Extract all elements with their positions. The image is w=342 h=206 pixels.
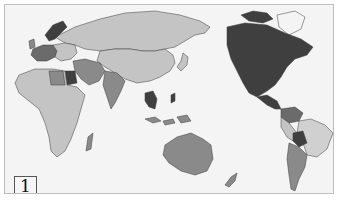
region-russia	[55, 11, 210, 51]
region-australia	[163, 133, 213, 175]
region-arctic-canada	[241, 11, 273, 23]
panel-label: 1	[14, 176, 37, 194]
region-thailand	[145, 91, 157, 109]
map-canvas	[5, 5, 334, 194]
region-central-america	[257, 95, 281, 109]
region-madagascar	[86, 133, 93, 151]
region-middle-east	[73, 59, 105, 85]
region-argentina-chile	[287, 143, 307, 191]
region-indonesia	[145, 115, 191, 125]
region-eastern-europe	[53, 43, 77, 61]
region-western-europe	[31, 45, 57, 61]
region-new-zealand	[225, 173, 237, 187]
region-philippines	[171, 93, 175, 103]
region-libya	[49, 71, 65, 85]
region-uk	[29, 39, 35, 49]
region-north-america	[227, 23, 313, 97]
region-japan	[177, 53, 188, 71]
world-map: 1	[4, 4, 334, 194]
